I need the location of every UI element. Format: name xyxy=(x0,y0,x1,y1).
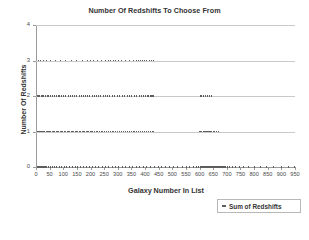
data-point xyxy=(139,166,140,168)
data-point xyxy=(173,166,174,168)
data-point xyxy=(182,166,183,168)
data-point xyxy=(119,95,120,97)
data-point xyxy=(153,95,154,97)
data-point xyxy=(112,131,113,133)
data-point xyxy=(136,95,137,97)
data-point xyxy=(104,131,105,133)
data-point xyxy=(138,60,139,62)
data-point xyxy=(90,60,91,62)
y-axis-title: Number Of Redshifts xyxy=(20,35,27,165)
data-point xyxy=(214,131,215,133)
data-point xyxy=(110,131,111,133)
data-point xyxy=(123,131,124,133)
data-point xyxy=(143,166,144,168)
y-tick-label: 4 xyxy=(12,22,30,28)
data-point xyxy=(106,131,107,133)
data-point xyxy=(72,95,73,97)
data-point xyxy=(118,60,119,62)
data-point xyxy=(273,166,274,168)
data-point xyxy=(54,166,55,168)
data-point xyxy=(113,131,114,133)
data-point xyxy=(203,95,204,97)
data-point xyxy=(56,95,57,97)
data-point xyxy=(101,60,102,62)
y-tick-mark xyxy=(33,25,36,26)
data-point xyxy=(70,95,71,97)
data-point xyxy=(113,60,114,62)
data-point xyxy=(151,60,152,62)
legend-label: Sum of Redshifts xyxy=(229,203,282,210)
data-point xyxy=(142,60,143,62)
data-point xyxy=(229,166,230,168)
data-point xyxy=(133,60,134,62)
data-point xyxy=(71,60,72,62)
data-point xyxy=(169,166,170,168)
data-point xyxy=(129,60,130,62)
data-point xyxy=(144,60,145,62)
data-point xyxy=(144,131,145,133)
data-point xyxy=(218,131,219,133)
data-point xyxy=(205,95,206,97)
x-axis-title: Galaxy Number In List xyxy=(36,186,296,195)
data-point xyxy=(105,60,106,62)
data-point xyxy=(55,60,56,62)
data-point xyxy=(54,95,55,97)
gridline xyxy=(36,61,295,62)
data-point xyxy=(148,131,149,133)
data-point xyxy=(150,131,151,133)
data-point xyxy=(76,95,77,97)
data-point xyxy=(98,95,99,97)
data-point xyxy=(107,95,108,97)
data-point xyxy=(131,131,132,133)
data-point xyxy=(142,131,143,133)
data-point xyxy=(114,95,115,97)
data-point xyxy=(131,95,132,97)
data-point xyxy=(61,95,62,97)
data-point xyxy=(98,166,99,168)
data-point xyxy=(122,166,123,168)
data-point xyxy=(94,95,95,97)
data-point xyxy=(125,60,126,62)
data-point xyxy=(80,166,81,168)
data-point xyxy=(153,60,154,62)
data-point xyxy=(63,95,64,97)
legend: Sum of Redshifts xyxy=(217,199,301,213)
data-point xyxy=(79,95,80,97)
data-point xyxy=(136,131,137,133)
data-point xyxy=(77,166,78,168)
data-point xyxy=(50,60,51,62)
data-point xyxy=(105,166,106,168)
data-point xyxy=(158,166,159,168)
plot-area: 01234 0501001502002503003504004505005506… xyxy=(36,25,295,168)
data-point xyxy=(127,131,128,133)
y-tick-label: 2 xyxy=(12,93,30,99)
data-point xyxy=(61,166,62,168)
data-point xyxy=(248,166,249,168)
data-point xyxy=(177,166,178,168)
data-point xyxy=(110,60,111,62)
data-point xyxy=(239,166,240,168)
y-tick-mark xyxy=(33,96,36,97)
data-point xyxy=(59,166,60,168)
data-point xyxy=(69,166,70,168)
data-point xyxy=(60,60,61,62)
data-point xyxy=(186,166,187,168)
x-tick-mark xyxy=(295,167,296,170)
data-point xyxy=(117,95,118,97)
data-point xyxy=(82,60,83,62)
data-point xyxy=(227,166,228,168)
data-point xyxy=(68,95,69,97)
data-point xyxy=(92,166,93,168)
data-point xyxy=(121,60,122,62)
data-point xyxy=(266,166,267,168)
data-point xyxy=(140,131,141,133)
data-point xyxy=(189,166,190,168)
data-point xyxy=(118,166,119,168)
data-point xyxy=(50,166,51,168)
data-point xyxy=(139,95,140,97)
y-tick-label: 3 xyxy=(12,58,30,64)
data-point xyxy=(154,166,155,168)
data-point xyxy=(129,95,130,97)
data-point xyxy=(92,95,93,97)
data-point xyxy=(64,166,65,168)
